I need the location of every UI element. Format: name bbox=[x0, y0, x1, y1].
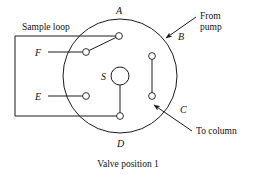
from-pump-label-line1: From bbox=[200, 11, 221, 21]
to-column-label: To column bbox=[196, 126, 237, 136]
connection-a-to-f bbox=[86, 36, 119, 52]
port-a-label: A bbox=[115, 5, 123, 16]
port-d-node[interactable] bbox=[117, 113, 124, 120]
rotor-s-label: S bbox=[101, 71, 106, 82]
port-e-label: E bbox=[34, 91, 41, 102]
port-d-label: D bbox=[116, 138, 125, 149]
sample-loop-label: Sample loop bbox=[22, 22, 70, 32]
port-c-label: C bbox=[180, 104, 187, 115]
port-b-node[interactable] bbox=[149, 53, 156, 60]
port-b-label: B bbox=[178, 31, 184, 42]
port-e-node[interactable] bbox=[83, 93, 90, 100]
figure-caption: Valve position 1 bbox=[97, 159, 159, 169]
rotor-s-circle bbox=[111, 67, 129, 85]
figure-canvas: Sample loop From pump To column A B C D … bbox=[0, 0, 257, 175]
port-a-node[interactable] bbox=[116, 33, 123, 40]
port-c-node[interactable] bbox=[149, 93, 156, 100]
valve-diagram-svg: Sample loop From pump To column A B C D … bbox=[0, 0, 257, 175]
from-pump-label-line2: pump bbox=[200, 22, 222, 32]
port-f-label: F bbox=[34, 47, 42, 58]
port-f-node[interactable] bbox=[83, 49, 90, 56]
